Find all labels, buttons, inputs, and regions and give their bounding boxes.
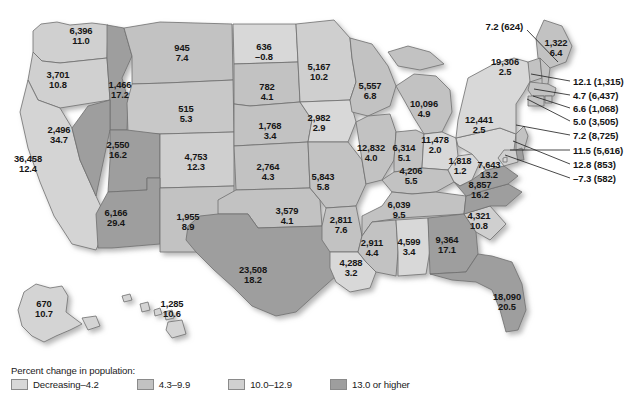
state-nd [233, 24, 298, 64]
state-ma [528, 82, 556, 96]
state-sd [234, 62, 300, 106]
legend-label-0: Decreasing–4.2 [33, 379, 99, 390]
state-ak [18, 284, 100, 342]
legend-item-1[interactable]: 4.3–9.9 [137, 379, 190, 390]
callout-ri: 6.6 (1,068) [573, 103, 618, 114]
state-hi-3 [154, 308, 162, 316]
callout-ma: 4.7 (6,437) [573, 90, 618, 101]
legend-items: Decreasing–4.24.3–9.910.0–12.913.0 or hi… [11, 379, 631, 390]
legend-item-3[interactable]: 13.0 or higher [330, 379, 410, 390]
callout-dc: –7.3 (582) [573, 173, 616, 184]
state-co [160, 132, 234, 188]
state-mt [124, 22, 233, 84]
state-wy [127, 80, 234, 134]
state-mi [388, 46, 452, 134]
legend-swatch-1 [137, 379, 154, 390]
legend-swatch-0 [11, 379, 28, 390]
state-ar [322, 206, 362, 252]
callout-de: 12.8 (853) [573, 159, 616, 170]
state-ky [382, 168, 454, 194]
callout-ct: 5.0 (3,505) [573, 116, 618, 127]
state-mn [296, 20, 356, 102]
us-map-svg [0, 0, 644, 356]
state-al [396, 218, 430, 276]
state-hi-4 [164, 310, 174, 320]
legend-swatch-3 [330, 379, 347, 390]
callout-nh: 12.1 (1,315) [573, 76, 624, 87]
state-ks [234, 142, 310, 190]
state-tx [186, 214, 342, 316]
state-wa [33, 22, 108, 63]
state-in [394, 130, 424, 172]
state-ne [234, 102, 312, 146]
callout-vt: 7.2 (624) [486, 21, 524, 32]
state-hi-2 [140, 302, 150, 312]
state-vt [528, 58, 542, 82]
legend-swatch-2 [228, 379, 245, 390]
legend-label-1: 4.3–9.9 [159, 379, 190, 390]
state-hi-1 [122, 294, 132, 302]
legend: Percent change in population: Decreasing… [11, 365, 631, 390]
legend-title: Percent change in population: [11, 365, 631, 376]
legend-label-3: 13.0 or higher [352, 379, 410, 390]
callout-nj: 7.2 (8,725) [573, 130, 618, 141]
legend-item-2[interactable]: 10.0–12.9 [228, 379, 292, 390]
legend-label-2: 10.0–12.9 [250, 379, 292, 390]
callout-md: 11.5 (5,616) [573, 145, 623, 156]
state-hi-5 [166, 320, 186, 338]
legend-item-0[interactable]: Decreasing–4.2 [11, 379, 99, 390]
state-dc [503, 157, 507, 162]
population-change-map-figure: 6,39611.03,70110.81,46617.29457.45155.36… [0, 0, 644, 405]
us-map[interactable]: 6,39611.03,70110.81,46617.29457.45155.36… [0, 0, 644, 356]
state-wi [350, 38, 396, 116]
